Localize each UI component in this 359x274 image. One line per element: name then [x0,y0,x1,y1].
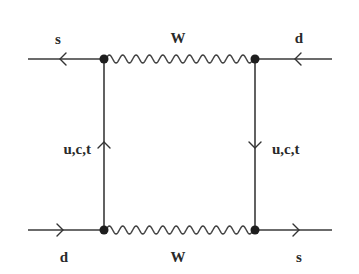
label-bottom-right-s: s [296,249,302,265]
label-top-w: W [171,30,186,46]
bottom-w-boson-wavy-line [106,226,253,234]
label-top-left-s: s [55,31,61,47]
vertex-dot [100,226,109,235]
feynman-box-diagram: s W d u,c,t u,c,t d W s [0,0,359,274]
label-top-right-d: d [295,30,304,46]
top-w-boson-wavy-line [106,55,253,63]
label-bottom-left-d: d [60,249,69,265]
label-bottom-w: W [171,249,186,265]
vertex-dot [251,226,260,235]
vertex-dot [251,55,260,64]
vertex-dot [100,55,109,64]
label-left-internal-quarks: u,c,t [64,141,92,157]
label-right-internal-quarks: u,c,t [272,141,300,157]
